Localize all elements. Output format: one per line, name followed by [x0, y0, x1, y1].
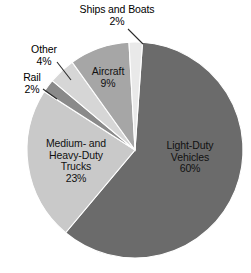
slice-label-aircraft-text: Aircraft — [92, 65, 124, 77]
slice-percent-ships-and-boats: 2% — [52, 16, 182, 28]
pie-chart: Ships and Boats 2% Other 4% Rail 2% Airc… — [0, 0, 251, 273]
slice-label-light-duty-vehicles-line1: Light-Duty — [167, 139, 214, 151]
slice-percent-light-duty-vehicles: 60% — [148, 163, 232, 175]
slice-label-other-text: Other — [31, 43, 57, 55]
pie-chart-svg — [0, 0, 251, 273]
slice-label-rail: Rail 2% — [2, 72, 62, 95]
slice-label-light-duty-vehicles: Light-Duty Vehicles 60% — [148, 140, 232, 175]
slice-percent-aircraft: 9% — [70, 78, 146, 90]
slice-label-other: Other 4% — [8, 44, 80, 67]
slice-label-trucks-line1: Medium- and — [46, 137, 106, 149]
slice-percent-medium-heavy-duty-trucks: 23% — [28, 173, 124, 185]
slice-label-medium-heavy-duty-trucks: Medium- and Heavy-Duty Trucks 23% — [28, 138, 124, 184]
slice-label-rail-text: Rail — [23, 71, 41, 83]
slice-percent-rail: 2% — [2, 84, 62, 96]
slice-label-ships-and-boats: Ships and Boats 2% — [52, 4, 182, 27]
slice-label-aircraft: Aircraft 9% — [70, 66, 146, 89]
slice-label-ships-and-boats-text: Ships and Boats — [80, 3, 155, 15]
